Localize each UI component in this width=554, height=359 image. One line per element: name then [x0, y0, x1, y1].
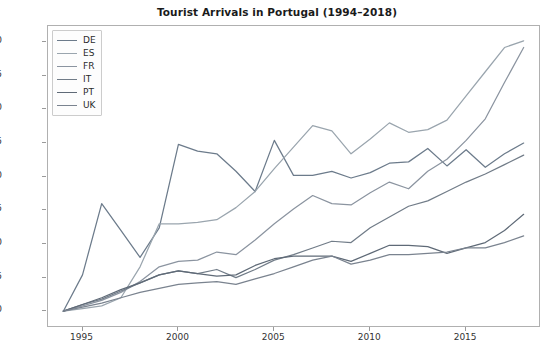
y-tick-mark — [42, 41, 46, 42]
legend-swatch-it — [57, 79, 77, 80]
y-tick-mark — [42, 243, 46, 244]
x-tick-mark — [369, 327, 370, 331]
legend-swatch-pt — [57, 92, 77, 93]
x-tick-label: 2015 — [442, 332, 488, 342]
legend-item-pt[interactable]: PT — [57, 86, 96, 99]
x-tick-mark — [273, 327, 274, 331]
y-tick-mark — [42, 277, 46, 278]
y-tick-label: 100 — [0, 170, 2, 180]
chart-figure: Tourist Arrivals in Portugal (1994–2018)… — [0, 0, 554, 359]
x-tick-label: 2005 — [250, 332, 296, 342]
series-line-fr — [63, 48, 523, 312]
y-tick-label: 150 — [0, 102, 2, 112]
series-lines — [48, 26, 539, 326]
y-tick-label: 200 — [0, 35, 2, 45]
legend-swatch-fr — [57, 66, 77, 67]
legend-swatch-de — [57, 40, 77, 41]
x-tick-mark — [465, 327, 466, 331]
series-line-pt — [63, 214, 523, 311]
y-tick-mark — [42, 142, 46, 143]
legend-label: UK — [83, 99, 96, 112]
legend-item-es[interactable]: ES — [57, 47, 96, 60]
y-tick-mark — [42, 209, 46, 210]
y-tick-label: 175 — [0, 69, 2, 79]
legend-label: DE — [83, 34, 96, 47]
y-tick-label: 75 — [0, 203, 2, 213]
y-tick-mark — [42, 108, 46, 109]
series-line-it — [63, 155, 523, 311]
x-tick-label: 1995 — [59, 332, 105, 342]
series-line-es — [63, 41, 523, 311]
x-tick-mark — [177, 327, 178, 331]
legend-label: FR — [83, 60, 94, 73]
plot-area — [47, 25, 540, 327]
legend-swatch-es — [57, 53, 77, 54]
x-tick-label: 2000 — [154, 332, 200, 342]
legend-item-de[interactable]: DE — [57, 34, 96, 47]
y-tick-mark — [42, 176, 46, 177]
chart-legend[interactable]: DEESFRITPTUK — [52, 30, 102, 116]
y-tick-mark — [42, 310, 46, 311]
legend-item-fr[interactable]: FR — [57, 60, 96, 73]
legend-item-uk[interactable]: UK — [57, 99, 96, 112]
y-tick-label: 125 — [0, 136, 2, 146]
x-tick-mark — [82, 327, 83, 331]
legend-item-it[interactable]: IT — [57, 73, 96, 86]
y-tick-label: 50 — [0, 237, 2, 247]
y-tick-mark — [42, 75, 46, 76]
y-tick-label: 25 — [0, 271, 2, 281]
legend-label: PT — [83, 86, 94, 99]
y-tick-label: 0 — [0, 304, 2, 314]
legend-label: ES — [83, 47, 94, 60]
x-tick-label: 2010 — [346, 332, 392, 342]
legend-label: IT — [83, 73, 91, 86]
chart-title: Tourist Arrivals in Portugal (1994–2018) — [0, 6, 554, 18]
legend-swatch-uk — [57, 105, 77, 106]
